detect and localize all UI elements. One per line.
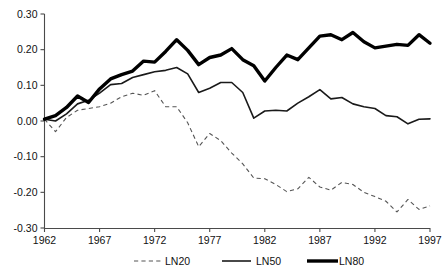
x-tick-label: 1997 — [418, 234, 442, 246]
chart-canvas: 0.300.200.100.00-0.10-0.20-0.30 19621967… — [0, 0, 443, 274]
legend-label-ln50: LN50 — [256, 255, 281, 267]
legend-label-ln20: LN20 — [165, 255, 190, 267]
x-tick-label: 1987 — [308, 234, 332, 246]
x-tick-label: 1982 — [253, 234, 277, 246]
y-tick-label: 0.00 — [17, 115, 38, 127]
legend-label-ln80: LN80 — [339, 255, 364, 267]
line-chart: 0.300.200.100.00-0.10-0.20-0.30 19621967… — [0, 0, 443, 274]
y-tick-label: -0.20 — [14, 186, 38, 198]
x-tick-label: 1992 — [363, 234, 387, 246]
x-tick-label: 1962 — [33, 234, 57, 246]
chart-background — [0, 0, 443, 274]
x-tick-label: 1972 — [143, 234, 167, 246]
x-tick-label: 1977 — [198, 234, 222, 246]
y-tick-label: -0.30 — [14, 222, 38, 234]
y-tick-label: 0.10 — [17, 79, 38, 91]
y-tick-label: 0.30 — [17, 8, 38, 20]
x-tick-label: 1967 — [88, 234, 112, 246]
y-tick-label: 0.20 — [17, 43, 38, 55]
y-tick-label: -0.10 — [14, 150, 38, 162]
